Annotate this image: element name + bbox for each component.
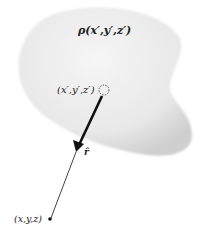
charge-distribution-diagram: ρ(x′,y′,z′) (x′,y′,z′) r̂ (x,y,z) [0, 0, 215, 235]
source-point-label: (x′,y′,z′) [57, 84, 95, 95]
charge-density-label: ρ(x′,y′,z′) [77, 24, 131, 37]
arrowhead-icon [73, 140, 84, 152]
field-point-dot [48, 217, 52, 221]
separation-line [51, 152, 76, 218]
unit-vector-label: r̂ [84, 147, 90, 157]
field-point-label: (x,y,z) [14, 213, 42, 224]
